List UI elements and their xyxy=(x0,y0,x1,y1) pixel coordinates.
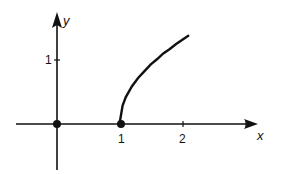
function-plot: 1 2 1 x y xyxy=(0,0,283,174)
start-point xyxy=(117,120,125,128)
x-axis-label: x xyxy=(256,128,264,143)
y-tick-label-1: 1 xyxy=(45,53,52,67)
y-axis-label: y xyxy=(62,13,71,28)
x-tick-label-2: 2 xyxy=(179,132,186,146)
function-curve xyxy=(120,36,189,124)
origin-point xyxy=(53,120,61,128)
x-tick-label-1: 1 xyxy=(118,132,125,146)
